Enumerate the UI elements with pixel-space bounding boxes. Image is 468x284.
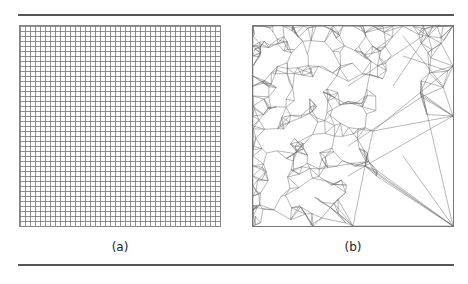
unstructured-mesh-panel [252, 25, 454, 227]
caption-b: (b) [333, 240, 373, 254]
caption-a: (a) [100, 240, 140, 254]
structured-mesh-panel [19, 25, 221, 227]
bottom-rule [18, 264, 454, 266]
top-rule [18, 14, 454, 16]
unstructured-mesh [253, 26, 453, 226]
